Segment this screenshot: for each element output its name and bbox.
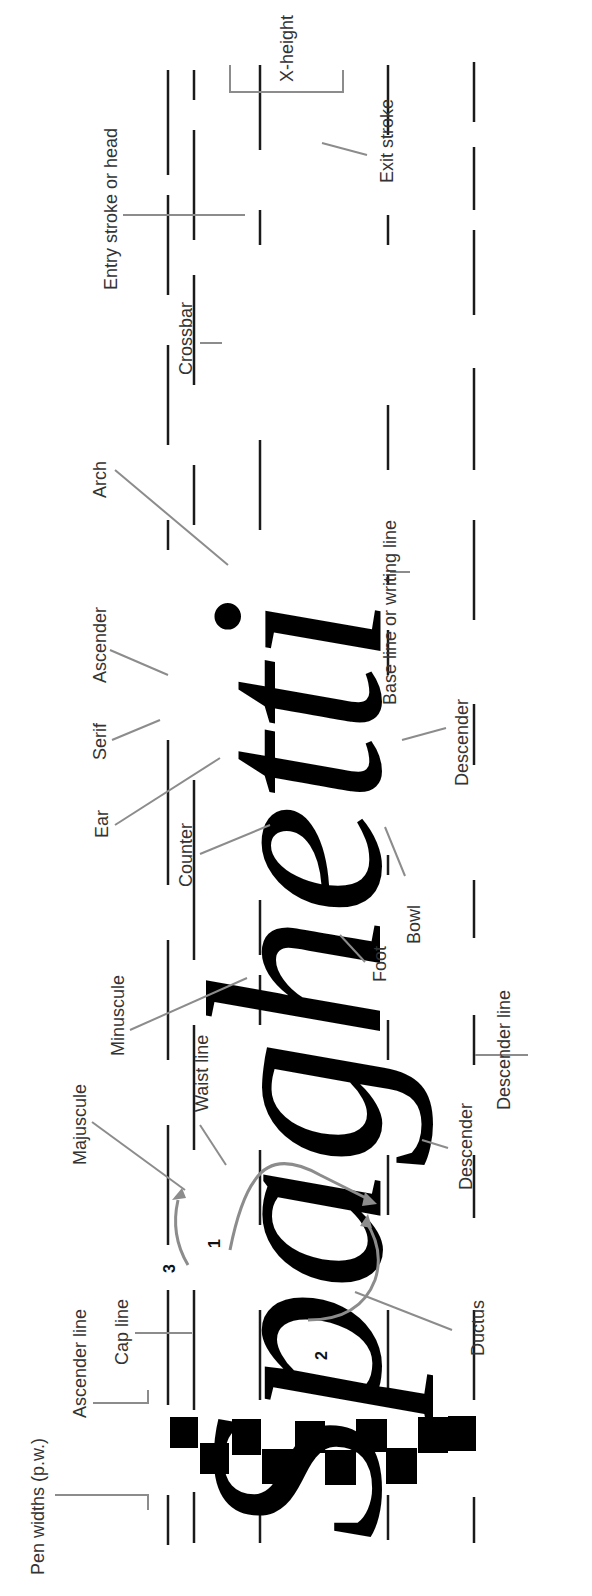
ascender-line-leader [93,1390,148,1403]
arch-leader [115,470,228,565]
label-waist-line: Waist line [192,1035,212,1112]
label-x-height: X-height [277,15,297,82]
label-exit-stroke: Exit stroke [377,99,397,183]
label-ascender: Ascender [90,607,110,683]
svg-text:3: 3 [161,1264,178,1273]
calligraphy-anatomy-diagram: Spaghetti 3 1 2 [0,0,592,1596]
exit-stroke-leader [322,143,367,155]
label-base-line: Base line or writing line [380,520,400,705]
label-descender-line: Descender line [494,990,514,1110]
label-pen-widths: Pen widths (p.w.) [28,1438,48,1575]
serif-leader [112,720,160,740]
label-arch: Arch [90,461,110,498]
label-ductus: Ductus [468,1300,488,1356]
label-foot: Foot [370,946,390,982]
ductus-number-2: 2 [313,1351,330,1360]
label-cap-line: Cap line [112,1299,132,1365]
label-descender-p: Descender [456,1103,476,1190]
label-ear: Ear [92,810,112,838]
diagram-canvas: Spaghetti 3 1 2 [0,0,592,1596]
label-crossbar: Crossbar [176,302,196,375]
pen-widths-leader [55,1495,148,1510]
ductus-number-1: 1 [206,1239,223,1248]
label-majuscule: Majuscule [70,1084,90,1165]
label-counter: Counter [176,823,196,887]
label-entry-stroke: Entry stroke or head [101,128,121,290]
svg-text:2: 2 [313,1351,330,1360]
label-serif: Serif [90,722,110,760]
label-descender-g: Descender [452,699,472,786]
label-minuscule: Minuscule [108,975,128,1056]
label-ascender-line: Ascender line [70,1309,90,1418]
svg-text:1: 1 [206,1239,223,1248]
label-bowl: Bowl [404,905,424,944]
ductus-number-3: 3 [161,1264,178,1273]
